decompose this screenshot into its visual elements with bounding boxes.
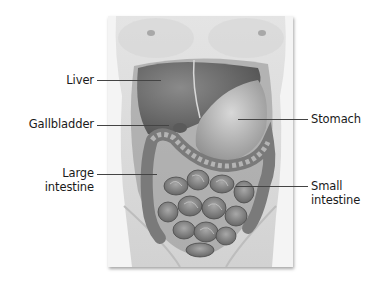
leader-line-stomach [238,119,308,120]
anatomy-drawing [108,16,293,267]
label-stomach: Stomach [311,112,361,126]
label-liver: Liver [44,73,94,87]
gallbladder-shape [173,123,187,133]
leader-line-large-intestine [97,174,157,175]
leader-line-liver [97,80,161,81]
leader-line-gallbladder [97,125,169,126]
label-large-intestine-line2: intestine [24,180,94,194]
leader-line-small-intestine [236,186,308,187]
label-small-intestine: Small intestine [311,179,360,207]
label-small-intestine-line2: intestine [311,193,360,207]
label-large-intestine-line1: Large [24,166,94,180]
torso-illustration [108,16,293,267]
label-small-intestine-line1: Small [311,179,360,193]
label-gallbladder: Gallbladder [14,117,94,131]
label-large-intestine: Large intestine [24,166,94,194]
